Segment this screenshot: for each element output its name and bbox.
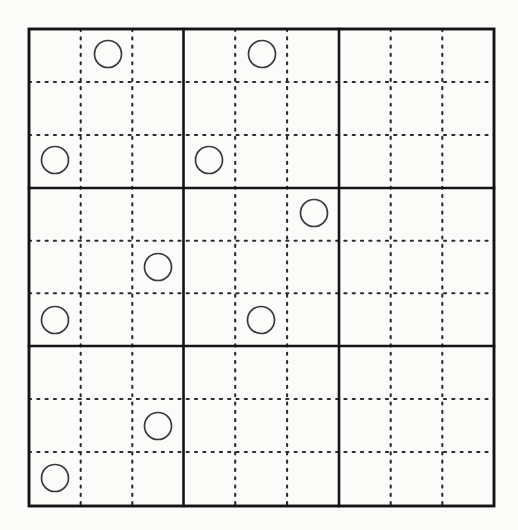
paper-background: [0, 0, 518, 530]
grid-canvas: [0, 0, 518, 530]
grid-diagram: [0, 0, 518, 530]
